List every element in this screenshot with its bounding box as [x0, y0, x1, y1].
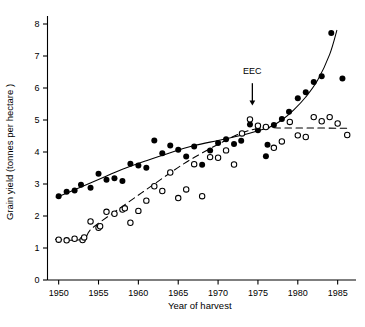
data-point-open [112, 211, 117, 216]
y-axis-tick-label: 4 [34, 147, 39, 157]
y-axis-tick-label: 2 [34, 211, 39, 221]
data-point-open [88, 219, 93, 224]
data-point-open [207, 154, 212, 159]
data-point-filled [199, 162, 205, 168]
data-point-open [303, 134, 308, 139]
chart-figure: 0123456781950195519601965197019751980198… [0, 0, 365, 327]
x-axis-tick-label: 1975 [248, 288, 268, 298]
data-point-filled [271, 122, 277, 128]
x-axis-tick-label: 1980 [288, 288, 308, 298]
x-axis-title: Year of harvest [168, 300, 232, 311]
data-point-open [271, 145, 276, 150]
data-point-filled [263, 153, 269, 159]
data-point-filled [56, 193, 62, 199]
data-point-filled [88, 185, 94, 191]
data-point-open [319, 119, 324, 124]
data-point-open [64, 238, 69, 243]
data-point-open [335, 121, 340, 126]
data-point-open [191, 161, 196, 166]
data-point-filled [231, 141, 237, 147]
series-filled-circles [56, 30, 346, 199]
data-point-filled [311, 79, 317, 85]
data-point-open [128, 220, 133, 225]
grain-yield-scatter-chart: 0123456781950195519601965197019751980198… [0, 0, 365, 327]
data-point-filled [159, 150, 165, 156]
data-point-open [247, 117, 252, 122]
data-point-filled [207, 147, 213, 153]
x-axis-tick-label: 1965 [168, 288, 188, 298]
data-point-open [104, 209, 109, 214]
data-point-filled [191, 144, 197, 150]
data-point-filled [78, 182, 84, 188]
data-point-filled [135, 162, 141, 168]
data-point-filled [265, 142, 271, 148]
data-point-filled [127, 161, 133, 167]
data-point-open [223, 148, 228, 153]
data-point-filled [339, 75, 345, 81]
data-point-open [136, 208, 141, 213]
data-point-open [160, 188, 165, 193]
y-axis-tick-label: 1 [34, 243, 39, 253]
data-point-filled [303, 89, 309, 95]
data-point-open [168, 170, 173, 175]
eec-arrow-head [249, 100, 255, 105]
x-axis-tick-label: 1970 [208, 288, 228, 298]
data-point-filled [96, 171, 102, 177]
data-point-open [122, 206, 127, 211]
data-point-open [97, 224, 102, 229]
data-point-filled [64, 189, 70, 195]
data-point-open [311, 114, 316, 119]
data-point-open [345, 132, 350, 137]
data-point-filled [175, 147, 181, 153]
data-point-filled [319, 73, 325, 79]
x-axis-tick-label: 1955 [89, 288, 109, 298]
data-point-open [263, 124, 268, 129]
data-point-open [215, 155, 220, 160]
data-point-filled [286, 109, 292, 115]
data-point-filled [167, 143, 173, 149]
data-point-filled [328, 30, 334, 36]
y-axis-tick-label: 8 [34, 19, 39, 29]
data-point-filled [183, 153, 189, 159]
x-axis-tick-label: 1985 [328, 288, 348, 298]
data-point-open [279, 139, 284, 144]
eec-annotation-label: EEC [243, 66, 262, 76]
y-axis-tick-label: 7 [34, 51, 39, 61]
data-point-open [239, 131, 244, 136]
data-point-open [56, 237, 61, 242]
data-point-filled [119, 178, 125, 184]
data-point-filled [223, 136, 229, 142]
data-point-filled [111, 175, 117, 181]
y-axis-tick-label: 6 [34, 83, 39, 93]
data-point-open [176, 195, 181, 200]
data-point-open [231, 162, 236, 167]
data-point-filled [295, 95, 301, 101]
data-point-filled [238, 138, 244, 144]
data-point-filled [151, 137, 157, 143]
data-point-open [144, 198, 149, 203]
data-point-open [152, 184, 157, 189]
data-point-filled [215, 140, 221, 146]
data-point-open [199, 193, 204, 198]
data-point-open [81, 235, 86, 240]
data-point-open [327, 114, 332, 119]
data-point-filled [143, 165, 149, 171]
y-axis-tick-label: 3 [34, 179, 39, 189]
data-point-open [255, 123, 260, 128]
data-point-open [184, 187, 189, 192]
data-point-filled [279, 116, 285, 122]
y-axis-title: Grain yield (tonnes per hectare ) [4, 84, 15, 220]
y-axis-tick-label: 5 [34, 115, 39, 125]
data-point-open [295, 133, 300, 138]
x-axis-tick-label: 1950 [49, 288, 69, 298]
data-point-filled [72, 187, 78, 193]
data-point-filled [103, 177, 109, 183]
x-axis-tick-label: 1960 [128, 288, 148, 298]
y-axis-tick-label: 0 [34, 275, 39, 285]
data-point-open [287, 119, 292, 124]
data-point-open [72, 236, 77, 241]
